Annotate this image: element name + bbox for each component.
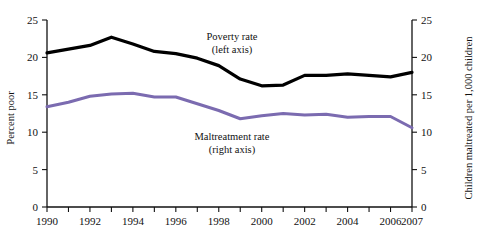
x-tick-label: 1998 (208, 215, 231, 227)
right-tick-label: 25 (421, 14, 433, 26)
right-tick-label: 20 (421, 51, 433, 63)
x-tick-label: 1990 (36, 215, 59, 227)
x-tick-label: 1996 (165, 215, 188, 227)
left-axis-title: Percent poor (5, 91, 16, 145)
x-tick-label: 1994 (122, 215, 145, 227)
x-tick-label: 2004 (337, 215, 360, 227)
maltreatment-rate-annotation-line1: Maltreatment rate (195, 131, 270, 142)
right-tick-label: 0 (421, 201, 427, 213)
x-tick-label: 2000 (251, 215, 274, 227)
left-tick-label: 20 (27, 51, 39, 63)
left-tick-label: 10 (27, 126, 39, 138)
poverty-rate-annotation-line2: (left axis) (212, 44, 253, 56)
left-tick-label: 0 (33, 201, 39, 213)
dual-axis-line-chart: 0510152025 0510152025 199019921994199619… (0, 0, 486, 236)
maltreatment-rate-annotation-line2: (right axis) (209, 144, 256, 156)
right-axis-title: Children maltreated per 1,000 children (463, 36, 474, 200)
x-tick-label: 2007 (401, 215, 424, 227)
x-tick-label: 2002 (294, 215, 316, 227)
left-tick-label: 5 (33, 164, 39, 176)
left-tick-label: 25 (27, 14, 39, 26)
poverty-rate-annotation-line1: Poverty rate (206, 31, 257, 42)
left-tick-label: 15 (27, 89, 39, 101)
chart-container: 0510152025 0510152025 199019921994199619… (0, 0, 486, 236)
right-tick-label: 5 (421, 164, 427, 176)
right-tick-label: 15 (421, 89, 433, 101)
x-tick-label: 2006 (380, 215, 403, 227)
x-tick-label: 1992 (79, 215, 101, 227)
right-tick-label: 10 (421, 126, 433, 138)
